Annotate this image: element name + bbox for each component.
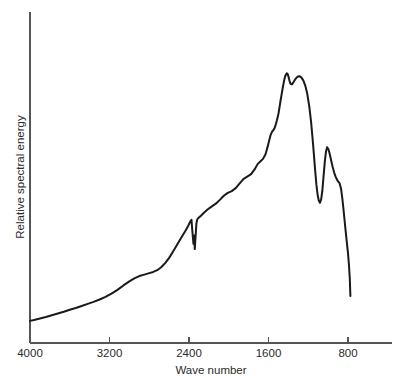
x-axis-tick-labels: 4000320024001600800 [17, 347, 357, 359]
x-axis-tick-label: 2400 [176, 347, 202, 359]
x-axis-tick-label: 1600 [256, 347, 282, 359]
x-axis-title: Wave number [175, 364, 246, 376]
spectrum-curve [30, 73, 350, 321]
x-axis-ticks [30, 337, 348, 343]
x-axis-tick-label: 3200 [97, 347, 123, 359]
x-axis-tick-label: 800 [338, 347, 357, 359]
y-axis-title: Relative spectral energy [14, 115, 26, 239]
x-axis-tick-label: 4000 [17, 347, 43, 359]
spectrum-chart-svg: 4000320024001600800 Wave number Relative… [0, 0, 405, 386]
spectrum-figure: 4000320024001600800 Wave number Relative… [0, 0, 405, 386]
